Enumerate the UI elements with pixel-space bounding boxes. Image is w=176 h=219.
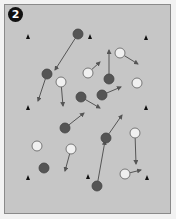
movement-arrow <box>109 115 122 134</box>
cone-icon <box>144 35 148 40</box>
dark-player-marker <box>104 74 114 84</box>
movement-arrow <box>135 138 136 164</box>
light-player-marker <box>66 144 76 154</box>
movement-arrow <box>55 38 75 70</box>
dark-player-marker <box>60 123 70 133</box>
cone-icon <box>144 105 148 110</box>
cone-icon <box>145 175 149 180</box>
players <box>32 29 142 191</box>
cone-icon <box>86 174 90 179</box>
light-player-marker <box>56 77 66 87</box>
light-player-marker <box>115 48 125 58</box>
movement-arrow <box>124 56 138 64</box>
dark-player-marker <box>92 181 102 191</box>
cone-icon <box>26 34 30 39</box>
dark-player-marker <box>73 29 83 39</box>
dark-player-marker <box>76 92 86 102</box>
light-player-marker <box>132 78 142 88</box>
light-player-marker <box>130 128 140 138</box>
light-player-marker <box>32 141 42 151</box>
movement-arrow <box>38 79 45 101</box>
movement-arrow <box>65 154 70 171</box>
cones <box>26 34 149 180</box>
movement-arrow <box>107 87 121 93</box>
movement-arrow <box>130 170 141 173</box>
movement-arrow <box>85 100 100 108</box>
movement-arrow <box>69 113 84 125</box>
dark-player-marker <box>101 133 111 143</box>
cone-icon <box>26 105 30 110</box>
light-player-marker <box>83 68 93 78</box>
cone-icon <box>26 175 30 180</box>
movement-arrow <box>61 87 63 106</box>
dark-player-marker <box>97 90 107 100</box>
drill-diagram <box>0 0 176 219</box>
dark-player-marker <box>42 69 52 79</box>
cone-icon <box>88 34 92 39</box>
movement-arrow <box>98 141 105 181</box>
light-player-marker <box>120 169 130 179</box>
movement-arrow <box>92 62 100 70</box>
movement-arrows <box>38 38 141 181</box>
dark-player-marker <box>39 163 49 173</box>
